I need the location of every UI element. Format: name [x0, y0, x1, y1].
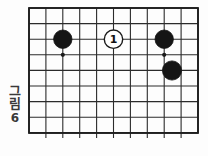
black-stone-right[interactable]: [155, 30, 173, 48]
figure-6-diagram: 그 림 6 1: [0, 0, 208, 156]
star-point-left: [61, 53, 65, 57]
go-board: 1: [0, 0, 208, 156]
black-stone-left[interactable]: [54, 30, 72, 48]
white-stone-move-1-label: 1: [110, 33, 118, 46]
go-board-canvas: 1: [0, 0, 208, 156]
black-stone-lower-right[interactable]: [162, 61, 181, 80]
star-point-right: [162, 53, 166, 57]
